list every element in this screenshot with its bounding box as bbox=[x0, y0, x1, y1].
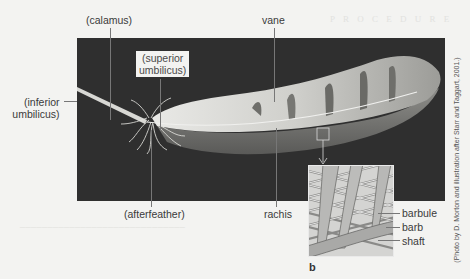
label-rachis: rachis bbox=[264, 208, 292, 220]
label-vane: vane bbox=[262, 14, 285, 26]
inset-label-barb: barb bbox=[402, 221, 423, 233]
label-afterfeather: (afterfeather) bbox=[124, 208, 185, 220]
label-calamus: (calamus) bbox=[86, 14, 132, 26]
leader-line-rachis bbox=[276, 128, 277, 207]
show-through-text: P R O C E D U R E bbox=[330, 14, 452, 24]
label-inferior-umbilicus-line2: umbilicus) bbox=[10, 108, 60, 120]
label-inferior-umbilicus: (inferior umbilicus) bbox=[10, 96, 60, 120]
photo-credit: (Photo by D. Morton and illustration aft… bbox=[453, 57, 460, 262]
leader-line-barb bbox=[386, 227, 400, 228]
panel-letter: b bbox=[309, 261, 316, 273]
label-superior-umbilicus-line1: (superior bbox=[139, 52, 186, 64]
leader-line-calamus bbox=[110, 28, 111, 120]
leader-line-shaft bbox=[378, 240, 400, 241]
label-superior-umbilicus: (superior umbilicus) bbox=[136, 51, 189, 77]
barb-structure-illustration bbox=[309, 166, 394, 257]
label-inferior-umbilicus-line1: (inferior bbox=[10, 96, 60, 108]
leader-line-vane bbox=[274, 28, 275, 102]
label-superior-umbilicus-line2: umbilicus) bbox=[139, 64, 186, 76]
inset-label-barbule: barbule bbox=[402, 207, 437, 219]
leader-line-inferior-umbilicus bbox=[64, 101, 77, 102]
inset-label-shaft: shaft bbox=[402, 235, 425, 247]
leader-line-barbule bbox=[378, 213, 400, 214]
barb-detail-inset bbox=[308, 165, 394, 257]
leader-line-superior-umbilicus bbox=[160, 79, 161, 131]
leader-line-afterfeather bbox=[151, 130, 152, 207]
